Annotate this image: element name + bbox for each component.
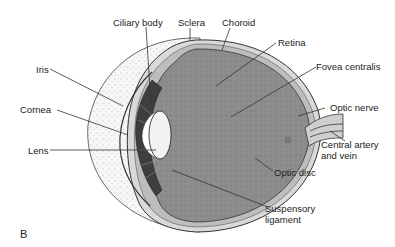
label-fovea-centralis: Fovea centralis (316, 61, 380, 72)
label-lens: Lens (28, 145, 49, 156)
panel-letter: B (20, 229, 27, 240)
label-choroid: Choroid (222, 17, 255, 28)
label-cornea: Cornea (20, 104, 51, 115)
label-optic-disc: Optic disc (274, 167, 316, 178)
label-ciliary-body: Ciliary body (113, 17, 163, 28)
label-central-artery-and-vein: Central artery and vein (321, 139, 379, 161)
eye-diagram (0, 0, 395, 247)
label-central-artery-line2: and vein (321, 150, 357, 161)
lens (149, 111, 171, 159)
label-suspensory-ligament: Suspensory ligament (265, 203, 315, 225)
label-optic-nerve: Optic nerve (330, 102, 379, 113)
label-sclera: Sclera (178, 17, 205, 28)
label-iris: Iris (36, 64, 49, 75)
label-retina: Retina (278, 37, 305, 48)
fovea-centralis (285, 137, 291, 143)
label-central-artery-line1: Central artery (321, 139, 379, 150)
label-suspensory-line1: Suspensory (265, 203, 315, 214)
label-suspensory-line2: ligament (265, 214, 301, 225)
